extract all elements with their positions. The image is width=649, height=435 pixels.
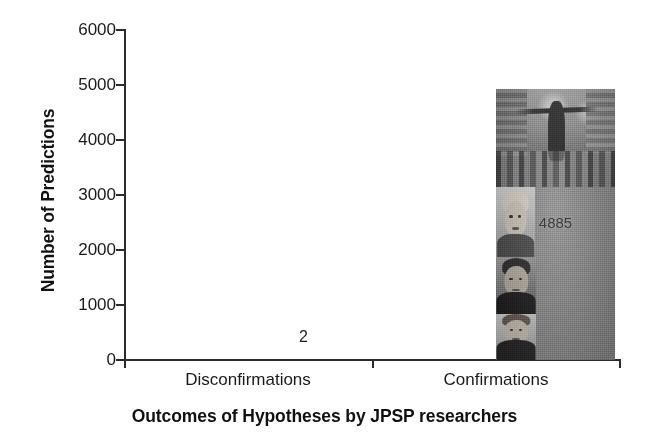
x-axis-tick-right — [619, 359, 621, 368]
collage-photo-row-4 — [496, 314, 615, 360]
collage-photo-street-scene — [496, 89, 615, 187]
y-tick-label-2000: 2000 — [44, 241, 116, 258]
plot-area: 2 — [126, 29, 621, 360]
y-tick-label-5000: 5000 — [44, 76, 116, 93]
y-axis-tick-1000 — [116, 304, 124, 306]
y-axis-tick-4000 — [116, 139, 124, 141]
y-axis-tick-2000 — [116, 249, 124, 251]
collage-photo-row-3 — [496, 257, 615, 314]
y-tick-label-6000: 6000 — [44, 21, 116, 38]
bar-disconfirmations — [244, 359, 363, 360]
y-tick-label-0: 0 — [44, 351, 116, 368]
collage-portrait-4 — [496, 257, 536, 314]
y-tick-label-4000: 4000 — [44, 131, 116, 148]
x-tick-label-confirmations: Confirmations — [372, 370, 620, 390]
collage-portrait-7 — [496, 314, 536, 360]
y-axis-tick-3000 — [116, 194, 124, 196]
bar-chart: Number of Predictions 6000 5000 4000 300… — [0, 0, 649, 435]
y-tick-label-1000: 1000 — [44, 296, 116, 313]
x-tick-label-disconfirmations: Disconfirmations — [124, 370, 372, 390]
x-axis-tick-middle — [372, 359, 374, 368]
y-axis-tick-6000 — [116, 29, 124, 31]
y-axis-tick-0 — [116, 359, 124, 361]
bar-value-label-disconfirmations: 2 — [244, 328, 363, 346]
y-tick-label-3000: 3000 — [44, 186, 116, 203]
bar-value-label-confirmations: 4885 — [496, 214, 615, 231]
x-axis-tick-left — [124, 359, 126, 368]
y-axis-tick-5000 — [116, 84, 124, 86]
x-axis-title: Outcomes of Hypotheses by JPSP researche… — [0, 406, 649, 427]
y-axis-tick-labels: 6000 5000 4000 3000 2000 1000 0 — [40, 0, 116, 435]
